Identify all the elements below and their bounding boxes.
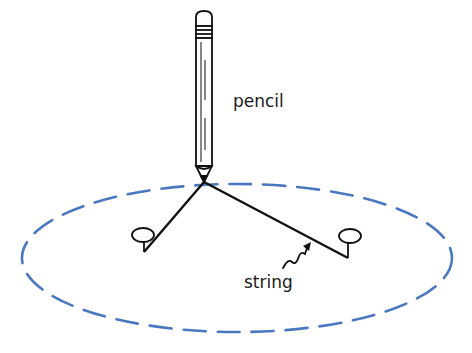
ellipse-drawing-diagram: pencil string xyxy=(0,0,472,353)
ellipse-path xyxy=(22,184,452,332)
diagram-canvas xyxy=(0,0,472,353)
pencil-icon xyxy=(196,11,212,182)
string-label: string xyxy=(244,272,293,292)
pencil-label: pencil xyxy=(233,91,284,111)
string-pointer-arrow-icon xyxy=(283,242,311,268)
string xyxy=(144,182,348,258)
left-pin-icon xyxy=(132,228,154,252)
